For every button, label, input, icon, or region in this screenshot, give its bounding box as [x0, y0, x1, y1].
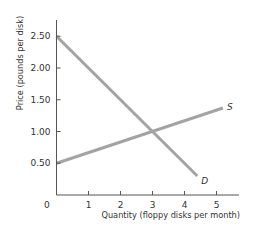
- y-axis-label: Price (pounds per disk): [15, 16, 25, 110]
- y-tick-label: 1.00: [30, 127, 50, 137]
- y-tick-label: 1.50: [30, 95, 50, 105]
- origin-label: 0: [44, 200, 50, 210]
- supply-label: S: [227, 102, 233, 112]
- x-tick-label: 4: [182, 200, 188, 210]
- x-ticks: 12345: [86, 191, 220, 210]
- demand-label: D: [201, 176, 208, 186]
- x-tick-label: 5: [214, 200, 220, 210]
- x-tick-label: 1: [86, 200, 92, 210]
- y-ticks: 0.501.001.502.002.50: [30, 31, 60, 168]
- x-tick-label: 2: [118, 200, 124, 210]
- y-tick-label: 2.50: [30, 31, 50, 41]
- x-tick-label: 3: [150, 200, 156, 210]
- x-axis-label: Quantity (floppy disks per month): [101, 210, 240, 220]
- y-tick-label: 0.50: [30, 158, 50, 168]
- supply-demand-chart: 0.501.001.502.002.50 12345 0 Quantity (f…: [0, 0, 253, 234]
- y-tick-label: 2.00: [30, 63, 50, 73]
- supply-curve: [57, 108, 223, 163]
- plot-lines: [57, 36, 223, 176]
- axes: [57, 20, 240, 195]
